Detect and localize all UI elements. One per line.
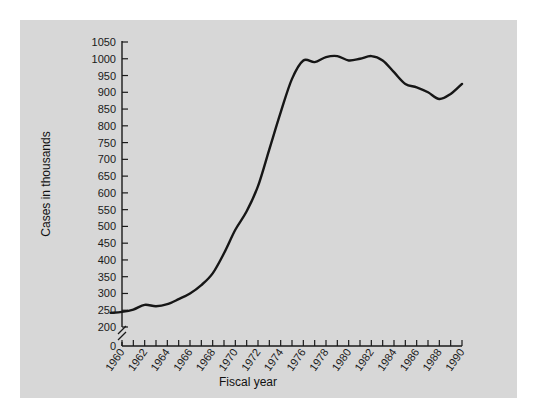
y-tick-label: 200 <box>98 321 116 333</box>
y-tick-label: 900 <box>98 86 116 98</box>
y-tick-label: 300 <box>98 287 116 299</box>
x-tick-label: 1980 <box>329 346 353 373</box>
chart-figure-panel: 2002503003504004505005506006507007508008… <box>20 20 517 398</box>
x-axis-title: Fiscal year <box>219 375 277 389</box>
y-tick-label: 450 <box>98 237 116 249</box>
y-tick-label: 950 <box>98 70 116 82</box>
y-axis-title: Cases in thousands <box>39 131 53 236</box>
y-tick-label: 400 <box>98 254 116 266</box>
line-chart: 2002503003504004505005506006507007508008… <box>20 20 517 398</box>
x-tick-label: 1988 <box>420 346 444 373</box>
x-tick-label: 1970 <box>216 346 240 373</box>
y-tick-label: 850 <box>98 103 116 115</box>
y-tick-label: 600 <box>98 187 116 199</box>
y-tick-label: 650 <box>98 170 116 182</box>
y-tick-label: 250 <box>98 304 116 316</box>
y-tick-label: 1000 <box>92 53 116 65</box>
data-series-line <box>111 56 462 313</box>
y-tick-label: 350 <box>98 271 116 283</box>
y-tick-group <box>122 42 128 327</box>
x-tick-label: 1968 <box>193 346 217 373</box>
y-tick-label: 800 <box>98 120 116 132</box>
y-tick-label: 700 <box>98 153 116 165</box>
x-tick-group <box>122 340 462 346</box>
x-tick-label: 1990 <box>443 346 467 373</box>
x-tick-label-group: 1960196219641966196819701972197419761978… <box>103 346 467 373</box>
x-tick-label: 1984 <box>375 346 399 373</box>
x-tick-label: 1978 <box>307 346 331 373</box>
y-zero-tick-label: 0 <box>110 340 116 352</box>
x-tick-label: 1982 <box>352 346 376 373</box>
x-tick-label: 1974 <box>261 346 285 373</box>
y-axis-break-icon <box>118 326 126 340</box>
x-tick-label: 1972 <box>239 346 263 373</box>
x-tick-label: 1964 <box>148 346 172 373</box>
y-tick-label-group: 2002503003504004505005506006507007508008… <box>92 36 116 333</box>
x-tick-label: 1966 <box>171 346 195 373</box>
x-tick-label: 1962 <box>125 346 149 373</box>
y-tick-label: 500 <box>98 220 116 232</box>
x-tick-label: 1986 <box>397 346 421 373</box>
y-tick-label: 1050 <box>92 36 116 48</box>
y-tick-label: 550 <box>98 204 116 216</box>
y-tick-label: 750 <box>98 137 116 149</box>
x-tick-label: 1976 <box>284 346 308 373</box>
